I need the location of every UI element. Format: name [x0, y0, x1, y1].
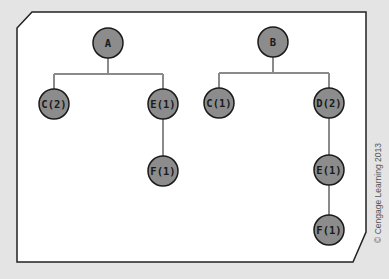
- node-b-label: B: [270, 36, 276, 48]
- copyright-credit: © Cengage Learning 2013: [373, 143, 383, 243]
- node-b: B: [258, 27, 288, 57]
- node-c2-label: C(2): [41, 98, 66, 110]
- node-a: A: [93, 28, 123, 58]
- node-e1-right-label: E(1): [316, 164, 341, 176]
- node-c2: C(2): [39, 89, 69, 119]
- node-e1-left-label: E(1): [150, 98, 175, 110]
- node-f1-right: F(1): [314, 215, 344, 245]
- tree-diagram: A C(2) E(1) F(1) B C(1) D(2) E(1) F(1): [0, 0, 389, 279]
- node-f1-right-label: F(1): [316, 224, 341, 236]
- node-c1: C(1): [204, 88, 234, 118]
- node-c1-label: C(1): [206, 97, 231, 109]
- node-d2-label: D(2): [316, 97, 341, 109]
- node-e1-left: E(1): [148, 89, 178, 119]
- node-f1-left-label: F(1): [150, 165, 175, 177]
- node-d2: D(2): [314, 88, 344, 118]
- diagram-panel: [17, 12, 366, 262]
- node-e1-right: E(1): [314, 155, 344, 185]
- node-f1-left: F(1): [148, 156, 178, 186]
- node-a-label: A: [105, 37, 112, 49]
